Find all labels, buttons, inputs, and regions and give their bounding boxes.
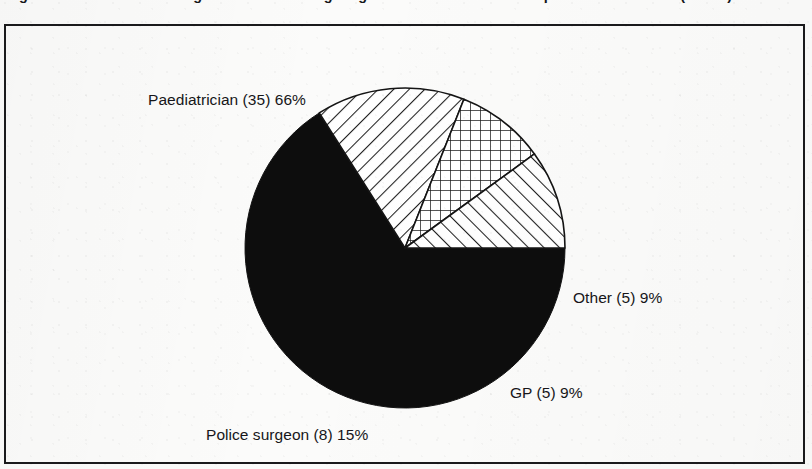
pie-label-police-surgeon: Police surgeon (8) 15% bbox=[206, 426, 368, 443]
pie-label-other: Other (5) 9% bbox=[573, 289, 662, 306]
pie-label-gp: GP (5) 9% bbox=[510, 384, 583, 401]
figure-caption: Figure 1 Professional background of doct… bbox=[6, 0, 806, 3]
pie-label-paediatrician: Paediatrician (35) 66% bbox=[148, 91, 306, 108]
pie-chart-svg: Paediatrician (35) 66%Police surgeon (8)… bbox=[0, 0, 812, 469]
pie-chart-plot-area: Paediatrician (35) 66%Police surgeon (8)… bbox=[0, 0, 812, 469]
pie-slice-group bbox=[245, 88, 565, 408]
